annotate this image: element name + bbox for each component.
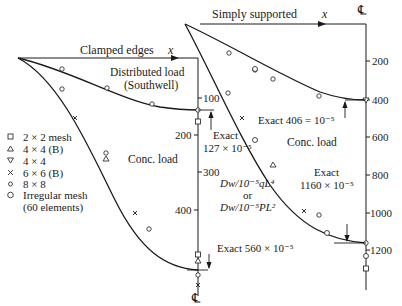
legend-triangle-up-icon	[8, 146, 14, 151]
left-tick-400: 400	[175, 204, 192, 216]
legend-circle-cross-icon	[8, 192, 14, 198]
right-tick-1000: 1000	[370, 207, 393, 219]
ordinate-label-1: Dw/10⁻⁵qL⁴	[219, 177, 275, 189]
right-tick-1200: 1200	[370, 244, 393, 256]
right-tick-800: 800	[372, 169, 389, 181]
legend-label-2x2: 2 × 2 mesh	[23, 131, 72, 143]
legend-label-4x4: 4 × 4	[23, 155, 46, 167]
right-tick-200: 200	[372, 55, 389, 67]
right-tick-600: 600	[372, 131, 389, 143]
centerline-left-bottom: ℄	[191, 290, 201, 305]
legend-label-60-elements: (60 elements)	[23, 201, 84, 214]
legend-cross-icon	[8, 170, 13, 175]
data-markers	[60, 51, 369, 277]
legend-square-icon	[8, 134, 13, 139]
distributed-label-2: (Southwell)	[124, 79, 178, 92]
exact-127-b: 127 × 10⁻⁵	[203, 142, 252, 154]
clamped-x-label: x	[167, 43, 174, 57]
exact-127-a: Exact	[213, 129, 238, 141]
legend-label-irregular: Irregular mesh	[23, 189, 88, 201]
clamped-title: Clamped edges	[80, 43, 154, 57]
ordinate-label-2: Dw/10⁻⁵PL²	[219, 201, 276, 213]
simply-title: Simply supported	[212, 7, 297, 21]
legend-circle-icon	[9, 182, 13, 186]
left-tick-100: 100	[203, 92, 220, 104]
left-tick-200: 200	[175, 129, 192, 141]
ordinate-or: or	[243, 189, 253, 201]
exact-406: Exact 406 = 10⁻⁵	[258, 114, 335, 126]
exact-1160-b: 1160 × 10⁻⁵	[300, 179, 354, 191]
left-tick-300: 300	[203, 166, 220, 178]
legend: 2 × 2 mesh 4 × 4 (B) 4 × 4 6 × 6 (B) 8 ×…	[8, 131, 88, 214]
plate-deflection-diagram: Clamped edges x Simply supported x ℄ ℄ D…	[0, 0, 402, 306]
right-tick-400: 400	[372, 94, 389, 106]
centerline-top: ℄	[357, 2, 367, 17]
simply-x-label: x	[321, 7, 328, 21]
conc-load-left: Conc. load	[128, 153, 178, 165]
exact-560: Exact 560 × 10⁻⁵	[217, 242, 294, 254]
exact-1160-a: Exact	[314, 166, 339, 178]
distributed-label-1: Distributed load	[110, 66, 185, 78]
legend-triangle-down-icon	[8, 158, 14, 163]
conc-load-right: Conc. load	[287, 136, 337, 148]
